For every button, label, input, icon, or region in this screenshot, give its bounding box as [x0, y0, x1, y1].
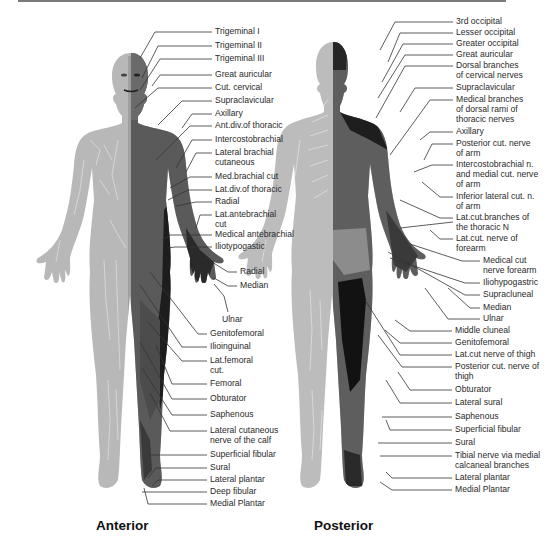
posterior-nerve-label: nerve forearm — [483, 265, 537, 275]
anterior-nerve-label: Intercostobrachial — [215, 134, 283, 144]
posterior-nerve-label: Ulnar — [483, 313, 504, 323]
anterior-nerve-label: Sural — [210, 462, 230, 472]
anterior-caption: Anterior — [96, 518, 149, 533]
posterior-nerve-label: Saphenous — [455, 411, 499, 421]
anterior-nerve-label: Superficial fibular — [210, 449, 276, 459]
posterior-nerve-label: Lat.cut. nerve of — [456, 233, 518, 243]
posterior-nerve-label: Tibial nerve via medial — [455, 450, 540, 460]
anterior-nerve-label: Genitofemoral — [210, 328, 264, 338]
anterior-nerve-label: Lat.femoral — [210, 355, 253, 365]
posterior-nerve-label: and medial cut. nerve — [456, 169, 538, 179]
posterior-nerve-label: Axillary — [456, 126, 484, 136]
posterior-nerve-label: of arm — [456, 201, 480, 211]
posterior-caption: Posterior — [314, 518, 373, 533]
posterior-nerve-label: Inferior lateral cut. n. — [456, 191, 534, 201]
posterior-nerve-label: Medical branches — [456, 94, 523, 104]
posterior-nerve-label: Supracluneal — [483, 289, 533, 299]
anterior-nerve-label: Obturator — [210, 393, 246, 403]
posterior-nerve-label: of cervical nerves — [456, 70, 523, 80]
posterior-nerve-label: Lesser occipital — [456, 27, 515, 37]
anterior-nerve-label: Lat.div.of thoracic — [215, 184, 282, 194]
anterior-nerve-label: Lateral plantar — [210, 474, 265, 484]
anterior-nerve-label: cutaneous — [215, 157, 255, 167]
anterior-nerve-label: Ulnar — [222, 314, 243, 324]
posterior-nerve-label: Supraclavicular — [456, 82, 515, 92]
anterior-nerve-label: Deep fibular — [210, 486, 256, 496]
anterior-nerve-label: Lateral brachial — [215, 147, 274, 157]
anterior-nerve-label: Saphenous — [210, 409, 254, 419]
posterior-nerve-label: calcaneal branches — [455, 460, 529, 470]
anterior-nerve-label: Median — [240, 280, 268, 290]
anterior-nerve-label: Trigeminal III — [215, 53, 264, 63]
anterior-nerve-label: Med.brachial cut — [215, 171, 278, 181]
posterior-nerve-label: Lateral sural — [455, 397, 502, 407]
posterior-nerve-label: forearm — [456, 243, 486, 253]
posterior-nerve-label: Lateral plantar — [455, 472, 510, 482]
anterior-nerve-label: Ant.div.of thoracic — [215, 120, 283, 130]
posterior-nerve-label: 3rd occipital — [456, 16, 502, 26]
posterior-nerve-label: Iliohypogastric — [483, 277, 538, 287]
posterior-nerve-label: Medical cut — [483, 255, 526, 265]
posterior-nerve-label: Lat.cut nerve of thigh — [455, 349, 535, 359]
posterior-nerve-label: Obturator — [455, 384, 491, 394]
anterior-nerve-label: Supraclavicular — [215, 95, 274, 105]
posterior-nerve-label: Genitofemoral — [455, 337, 509, 347]
anterior-nerve-label: Trigeminal I — [215, 26, 260, 36]
anterior-nerve-label: Trigeminal II — [215, 40, 262, 50]
anterior-nerve-label: Great auricular — [215, 69, 272, 79]
posterior-nerve-label: Posterior cut. nerve — [456, 138, 531, 148]
posterior-nerve-label: Superficial fibular — [455, 424, 521, 434]
anterior-nerve-label: cut. — [210, 365, 224, 375]
posterior-nerve-label: Sural — [455, 437, 475, 447]
posterior-nerve-label: thoracic nerves — [456, 114, 514, 124]
posterior-nerve-label: Posterior cut. nerve of — [455, 361, 539, 371]
posterior-nerve-label: Great auricular — [456, 49, 513, 59]
anterior-nerve-label: nerve of the calf — [210, 435, 271, 445]
posterior-nerve-label: Lat.cut.branches of — [456, 212, 529, 222]
anterior-nerve-label: Axillary — [215, 108, 243, 118]
anterior-nerve-label: Radial — [215, 196, 239, 206]
posterior-nerve-label: of arm — [456, 148, 480, 158]
anterior-nerve-label: cut — [215, 219, 226, 229]
posterior-nerve-label: of dorsal rami of — [456, 104, 518, 114]
anterior-nerve-label: Iliotypogastic — [215, 241, 265, 251]
posterior-nerve-label: of arm — [456, 179, 480, 189]
posterior-nerve-label: Median — [483, 302, 511, 312]
posterior-nerve-label: Dorsal branches — [456, 60, 519, 70]
posterior-nerve-label: thigh — [455, 371, 474, 381]
posterior-nerve-label: the thoracic N — [456, 222, 509, 232]
anterior-nerve-label: Cut. cervical — [215, 82, 262, 92]
anterior-nerve-label: Lateral cutaneous — [210, 425, 278, 435]
posterior-nerve-label: Middle cluneal — [455, 325, 510, 335]
posterior-nerve-label: Greater occipital — [456, 38, 519, 48]
anterior-nerve-label: Medial Plantar — [210, 498, 265, 508]
anterior-nerve-label: Femoral — [210, 378, 242, 388]
anterior-nerve-label: Ilioinguinal — [210, 341, 251, 351]
anterior-nerve-label: Radial — [240, 266, 264, 276]
anterior-nerve-label: Medical antebrachial — [215, 229, 294, 239]
anterior-nerve-label: Lat.antebrachial — [215, 209, 276, 219]
posterior-nerve-label: Intercostobrachial n. — [456, 159, 533, 169]
posterior-nerve-label: Medial Plantar — [455, 484, 510, 494]
